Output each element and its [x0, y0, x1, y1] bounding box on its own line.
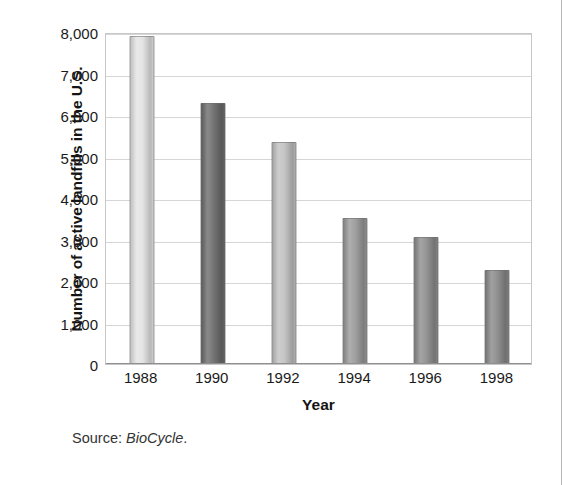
y-axis-tick-label: 4,000 [24, 191, 98, 208]
plot-area [105, 33, 532, 365]
bar-slot [106, 34, 177, 364]
bar[interactable] [129, 36, 154, 364]
page-gutter-rule [561, 0, 562, 485]
x-axis-baseline [106, 363, 531, 364]
source-name: BioCycle [126, 430, 183, 446]
y-axis-tick-label: 7,000 [24, 66, 98, 83]
y-axis-tick-label: 1,000 [24, 315, 98, 332]
y-axis-tick-label: 0 [24, 357, 98, 374]
x-axis-tick-label: 1988 [124, 369, 157, 386]
x-axis-title: Year [105, 396, 532, 414]
bar-slot [391, 34, 462, 364]
bar-slot [462, 34, 533, 364]
source-caption: Source: BioCycle. [72, 430, 187, 446]
bar-slot [177, 34, 248, 364]
source-prefix: Source: [72, 430, 122, 446]
bar-series [106, 34, 531, 364]
y-axis-tick-labels: 01,0002,0003,0004,0005,0006,0007,0008,00… [24, 33, 98, 365]
x-axis-tick-label: 1990 [195, 369, 228, 386]
bar-slot [248, 34, 319, 364]
x-axis-tick-label: 1998 [480, 369, 513, 386]
bar[interactable] [200, 103, 225, 364]
y-axis-tick-label: 2,000 [24, 274, 98, 291]
bar-chart-figure: Number of active landfills in the U.S. 0… [0, 0, 569, 485]
bar[interactable] [343, 218, 368, 364]
source-suffix: . [183, 430, 187, 446]
y-axis-tick-label: 3,000 [24, 232, 98, 249]
x-axis-tick-label: 1996 [409, 369, 442, 386]
y-axis-tick-label: 5,000 [24, 149, 98, 166]
bar[interactable] [271, 142, 296, 364]
y-axis-tick-label: 8,000 [24, 25, 98, 42]
bar[interactable] [414, 237, 439, 364]
bar-slot [320, 34, 391, 364]
x-axis-tick-label: 1992 [266, 369, 299, 386]
x-axis-tick-labels: 198819901992199419961998 [105, 369, 532, 393]
bar[interactable] [485, 270, 510, 364]
y-axis-tick-label: 6,000 [24, 108, 98, 125]
x-axis-tick-label: 1994 [337, 369, 370, 386]
